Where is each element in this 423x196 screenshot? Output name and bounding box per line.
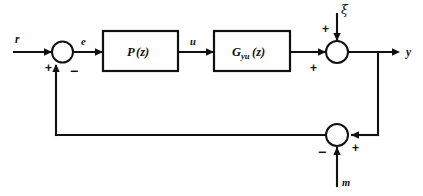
wire-measurement-noise-input	[333, 147, 340, 186]
feedback-junction-plus-sign: +	[352, 141, 359, 155]
feedback-junction-minus-sign: −	[318, 144, 326, 160]
wire-output-to-y	[348, 48, 400, 55]
output-summing-junction	[326, 41, 348, 63]
label-measurement-noise-signal: m	[342, 177, 350, 188]
wire-controller-to-plant	[178, 48, 214, 55]
output-junction-plus-sign-left: +	[310, 61, 317, 75]
wire-output-feedback-tap	[351, 52, 378, 139]
label-control-signal: u	[190, 36, 196, 47]
feedback-summing-junction	[326, 124, 348, 146]
wire-disturbance-input	[333, 14, 340, 41]
controller-block-label: P (z)	[127, 45, 149, 59]
error-junction-plus-sign: +	[45, 61, 52, 75]
svg-text:(z): (z)	[252, 45, 265, 59]
svg-text:P: P	[127, 45, 135, 59]
wire-error-to-controller	[73, 48, 103, 55]
label-reference-signal: r	[15, 33, 20, 45]
label-error-signal: e	[81, 36, 86, 47]
output-junction-plus-sign-top: +	[322, 22, 329, 36]
label-output-signal: y	[404, 46, 412, 59]
wire-plant-to-output-junction	[290, 48, 326, 55]
svg-text:yu: yu	[240, 51, 250, 61]
wire-feedback-path	[52, 64, 326, 135]
block-diagram-canvas: r e u y ξ m P (z) G yu (z) + − + + + −	[0, 0, 423, 196]
error-summing-junction	[52, 42, 73, 63]
label-disturbance-signal: ξ	[341, 2, 349, 17]
block-diagram-svg: r e u y ξ m P (z) G yu (z) + − + + + −	[0, 0, 423, 196]
svg-text:(z): (z)	[136, 45, 149, 59]
svg-text:G: G	[232, 45, 241, 59]
error-junction-minus-sign: −	[70, 63, 78, 79]
wire-reference-input	[14, 48, 52, 55]
